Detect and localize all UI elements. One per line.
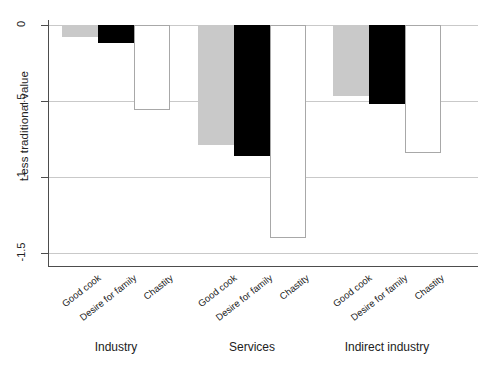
y-axis-line — [48, 20, 49, 267]
bar-chart: Less traditional value 0-.5-1-1.5 Good c… — [0, 0, 492, 371]
bar-services-desire-for-family — [234, 25, 270, 156]
group-label-services: Services — [229, 340, 275, 354]
bar-industry-good-cook — [62, 25, 98, 37]
bar-industry-chastity — [134, 25, 170, 110]
y-tick-label-3: -1.5 — [15, 235, 27, 269]
group-label-indirect-industry: Indirect industry — [345, 340, 430, 354]
x-category-label: Chastity — [412, 272, 446, 302]
x-category-label: Chastity — [141, 272, 175, 302]
y-tick-mark-3 — [41, 253, 48, 254]
gridline-2 — [48, 177, 478, 178]
bar-services-chastity — [270, 25, 306, 238]
bar-indirect-industry-chastity — [405, 25, 441, 153]
gridline-3 — [48, 253, 478, 254]
group-label-industry: Industry — [95, 340, 138, 354]
y-tick-label-0: 0 — [15, 7, 27, 41]
bar-indirect-industry-desire-for-family — [369, 25, 405, 104]
y-tick-label-1: -.5 — [15, 83, 27, 117]
x-axis-line — [48, 266, 478, 267]
y-tick-label-2: -1 — [15, 159, 27, 193]
bar-indirect-industry-good-cook — [333, 25, 369, 96]
y-tick-mark-0 — [41, 25, 48, 26]
bar-services-good-cook — [198, 25, 234, 145]
y-tick-mark-2 — [41, 177, 48, 178]
y-axis-title: Less traditional value — [18, 26, 30, 226]
bar-industry-desire-for-family — [98, 25, 134, 43]
x-category-label: Chastity — [277, 272, 311, 302]
y-tick-mark-1 — [41, 101, 48, 102]
